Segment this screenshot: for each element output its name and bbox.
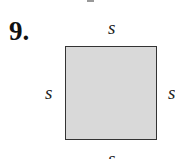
problem-number: 9. — [9, 18, 29, 45]
square-figure — [65, 46, 157, 140]
side-label-top: s — [108, 18, 115, 37]
side-label-left: s — [45, 83, 52, 102]
side-label-right: s — [168, 83, 175, 102]
side-label-bottom: s — [108, 149, 115, 159]
artifact-mark — [87, 0, 94, 2]
